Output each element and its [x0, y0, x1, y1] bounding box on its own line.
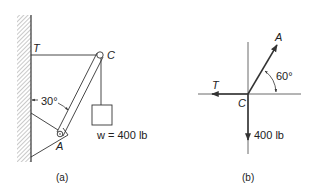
label-weight-b: 400 lb: [254, 130, 284, 141]
label-tension-b: T: [212, 80, 219, 91]
label-strut-force-b: A: [275, 32, 282, 43]
caption-b: (b): [242, 173, 254, 183]
pin-c: [97, 52, 103, 58]
label-pin-a-a: A: [56, 141, 63, 152]
label-origin-c-b: C: [238, 98, 246, 109]
label-pin-c-a: C: [107, 50, 115, 61]
caption-a: (a): [56, 173, 68, 183]
hanging-weight: [92, 105, 112, 125]
force-a-arrow: [248, 45, 277, 94]
label-angle-60: 60°: [276, 71, 293, 82]
figure-b: [198, 42, 301, 154]
label-weight-a: w = 400 lb: [97, 130, 147, 141]
label-angle-30: 30°: [41, 96, 58, 107]
wall: [17, 15, 31, 162]
label-tension-a: T: [33, 43, 40, 54]
angle-60-arc: [265, 71, 276, 92]
